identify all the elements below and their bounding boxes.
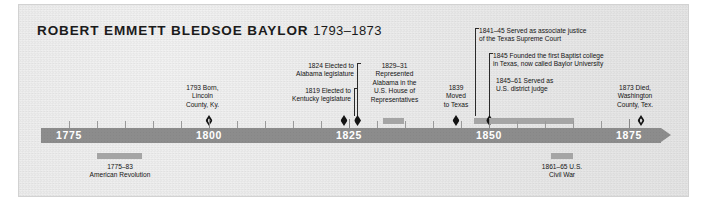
span-revolution: [97, 153, 142, 159]
timeline-panel: ROBERT EMMETT BLEDSOE BAYLOR 1793–1873 1…: [18, 4, 689, 197]
event-label-civilwar: 1861–65 U.S. Civil War: [516, 163, 608, 180]
event-label-revolution: 1775–83 American Revolution: [74, 163, 166, 180]
span-civilwar: [551, 153, 573, 159]
